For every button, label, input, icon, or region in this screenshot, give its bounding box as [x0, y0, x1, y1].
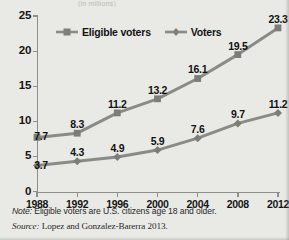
data-label: 7.7: [24, 130, 58, 142]
data-point-marker[interactable]: [274, 109, 282, 117]
legend-diamond-marker-icon: [165, 27, 187, 37]
page-edge-shadow-right: [285, 0, 289, 240]
legend-label-eligible-voters: Eligible voters: [82, 26, 151, 38]
data-label: 13.2: [141, 84, 175, 96]
legend-square-marker-icon: [56, 27, 78, 37]
data-label: 3.7: [24, 159, 58, 171]
data-point-marker[interactable]: [113, 153, 121, 161]
data-label: 7.6: [181, 123, 215, 135]
figure-source: Source: Lopez and Gonzalez-Barerra 2013.: [12, 221, 284, 231]
figure-note: Note: Eligible voters are U.S. citizens …: [12, 206, 284, 216]
data-label: 16.1: [181, 63, 215, 75]
source-body: Lopez and Gonzalez-Barerra 2013.: [40, 221, 168, 231]
data-point-marker[interactable]: [194, 134, 202, 142]
data-label: 11.2: [100, 98, 134, 110]
legend-item-eligible-voters[interactable]: Eligible voters: [56, 26, 151, 38]
data-point-marker[interactable]: [114, 110, 121, 117]
figure-panel: (in millions) 0510152025 198819921996200…: [0, 0, 289, 240]
data-label: 4.3: [60, 146, 94, 158]
data-label: 5.9: [141, 135, 175, 147]
data-point-marker[interactable]: [154, 146, 162, 154]
data-point-marker[interactable]: [234, 119, 242, 127]
data-label: 9.7: [221, 108, 255, 120]
chart-legend: Eligible voters Voters: [56, 26, 221, 38]
note-lead: Note:: [12, 206, 32, 216]
data-label: 4.9: [100, 142, 134, 154]
source-lead: Source:: [12, 221, 40, 231]
legend-label-voters: Voters: [191, 26, 222, 38]
data-point-marker[interactable]: [275, 25, 282, 32]
data-point-marker[interactable]: [74, 130, 81, 137]
data-label: 19.5: [221, 40, 255, 52]
data-label: 8.3: [60, 118, 94, 130]
chart-plot-area: 0510152025 1988199219962000200420082012 …: [0, 5, 289, 201]
data-point-marker[interactable]: [154, 95, 161, 102]
note-body: Eligible voters are U.S. citizens age 18…: [32, 206, 216, 216]
legend-item-voters[interactable]: Voters: [165, 26, 222, 38]
data-point-marker[interactable]: [234, 51, 241, 58]
data-point-marker[interactable]: [73, 157, 81, 165]
data-point-marker[interactable]: [194, 75, 201, 82]
